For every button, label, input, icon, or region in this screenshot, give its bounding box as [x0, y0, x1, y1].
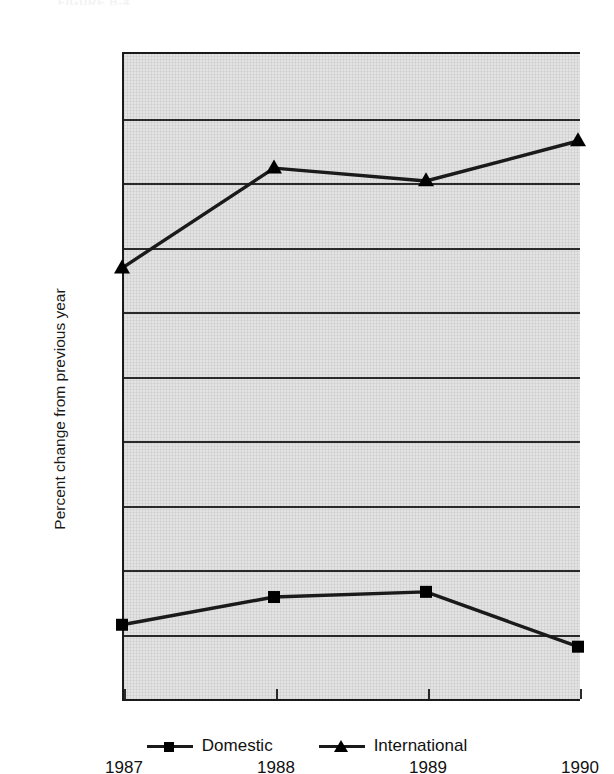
figure-chart: FIGURE B-4 Percent change from previous …	[0, 0, 614, 774]
x-axis-tick-mark	[428, 689, 430, 699]
chart-legend: Domestic International	[0, 736, 614, 756]
y-axis-title: Percent change from previous year	[51, 199, 69, 619]
gridline	[124, 506, 580, 508]
gridline	[124, 119, 580, 121]
gridline	[124, 312, 580, 314]
x-axis-tick-label: 1988	[231, 758, 321, 774]
legend-marker-square	[147, 738, 193, 754]
x-axis-tick-mark	[124, 689, 126, 699]
cropped-figure-caption: FIGURE B-4	[58, 0, 278, 5]
legend-marker-triangle	[319, 738, 365, 754]
gridline	[124, 248, 580, 250]
gridline	[124, 183, 580, 185]
gridline	[124, 570, 580, 572]
plot-area: 3.00%4.00%5.00%6.00%7.00%8.00%9.00%10.00…	[122, 52, 580, 701]
x-axis-tick-label: 1989	[383, 758, 473, 774]
x-axis-tick-mark	[276, 689, 278, 699]
x-axis-tick-label: 1990	[535, 758, 614, 774]
legend-item-domestic: Domestic	[147, 736, 273, 756]
x-axis-tick-mark	[580, 689, 582, 699]
gridline	[124, 441, 580, 443]
legend-label-international: International	[374, 736, 468, 756]
gridline	[124, 635, 580, 637]
gridline	[124, 377, 580, 379]
legend-item-international: International	[319, 736, 468, 756]
x-axis-tick-label: 1987	[79, 758, 169, 774]
legend-label-domestic: Domestic	[202, 736, 273, 756]
